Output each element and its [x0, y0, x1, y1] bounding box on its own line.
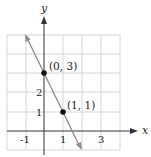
x-axis-label: x	[142, 124, 149, 137]
y-axis-arrow-icon	[41, 16, 47, 24]
point-1-1	[60, 109, 66, 115]
grid	[7, 35, 120, 150]
x-tick-1: 1	[60, 134, 66, 145]
point-label-0-3: (0, 3)	[49, 60, 77, 72]
y-tick-1: 1	[36, 107, 42, 118]
point-0-3	[41, 70, 47, 76]
y-tick-2: 2	[36, 87, 42, 98]
point-label-1-1: (1, 1)	[67, 99, 95, 111]
x-tick-minus1: -1	[20, 134, 30, 145]
y-axis	[41, 16, 47, 155]
graph: x y -1 1 3 1 2 (0, 3) (1, 1)	[0, 0, 151, 157]
y-axis-label: y	[40, 2, 48, 15]
x-tick-3: 3	[98, 134, 104, 145]
line-arrow-down-icon	[76, 142, 82, 150]
x-axis-arrow-icon	[130, 128, 138, 134]
